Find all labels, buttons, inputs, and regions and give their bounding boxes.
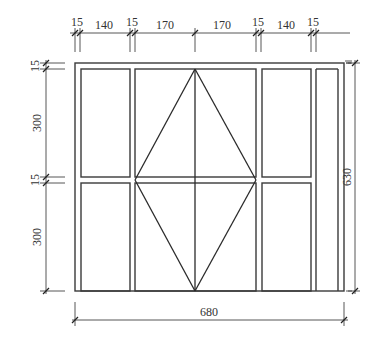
dim-top-5: 170 <box>213 18 231 32</box>
dim-top-2: 140 <box>95 18 113 32</box>
panel-right-top <box>262 69 311 177</box>
dim-top-6: 15 <box>252 15 264 29</box>
dim-top-8: 15 <box>307 15 319 29</box>
left-dimension-chain: 15 300 15 300 <box>28 60 65 294</box>
window-frame <box>75 63 344 291</box>
dim-top-1: 15 <box>71 15 83 29</box>
bottom-dimension: 680 <box>72 302 348 326</box>
panel-left-bottom <box>81 183 130 291</box>
dim-bottom: 680 <box>200 305 218 319</box>
center-diamond-lines <box>135 69 256 291</box>
dim-top-7: 140 <box>277 18 295 32</box>
dim-top-4: 170 <box>156 18 174 32</box>
right-dimension: 630 <box>340 60 360 294</box>
dim-right: 630 <box>340 168 354 186</box>
dim-top-3: 15 <box>126 15 138 29</box>
dim-left-1: 15 <box>28 60 42 72</box>
dim-left-4: 300 <box>30 228 44 246</box>
dim-left-2: 300 <box>30 114 44 132</box>
dim-left-3: 15 <box>28 174 42 186</box>
window-elevation-drawing: 15 140 15 170 170 15 140 15 15 300 15 30… <box>0 0 370 348</box>
panel-right-bottom <box>262 183 311 291</box>
panel-left-top <box>81 69 130 177</box>
top-dimension-chain: 15 140 15 170 170 15 140 15 <box>70 15 350 52</box>
